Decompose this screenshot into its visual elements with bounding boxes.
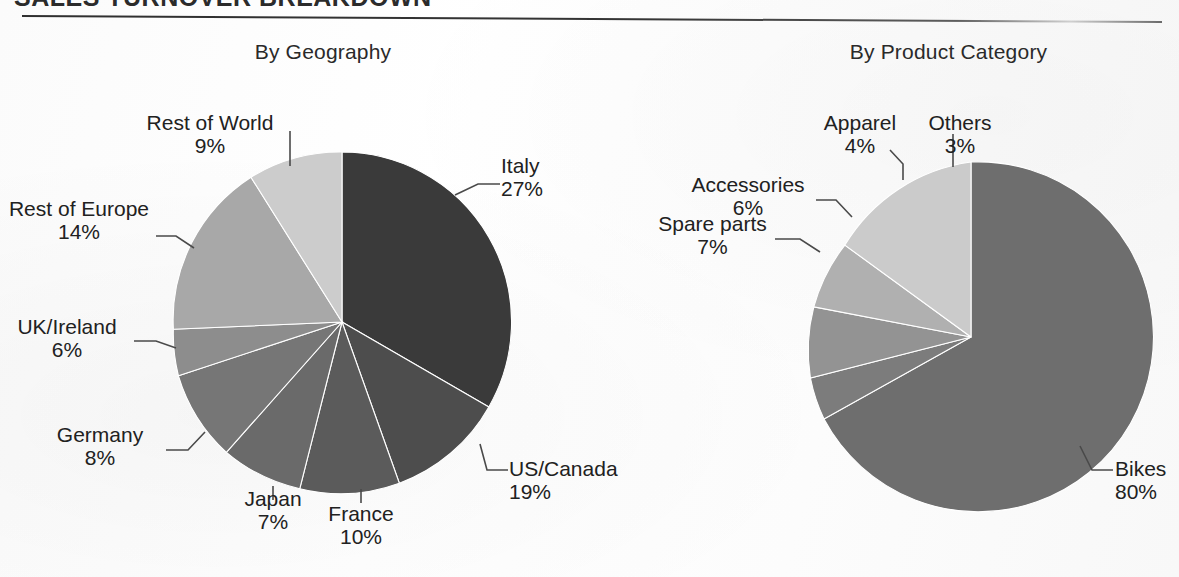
page-root: SALES TURNOVER BREAKDOWN By Geography — [0, 0, 1179, 577]
pie-slices-product — [808, 162, 1153, 512]
pie-slices-geography — [173, 152, 511, 494]
pie-label-others: Others 3% — [916, 112, 1004, 157]
pie-label-us-canada-pct: 19% — [509, 481, 618, 504]
leader-line-accessories — [816, 200, 852, 217]
pie-label-rest-of-world-name: Rest of World — [131, 112, 289, 135]
pie-label-rest-of-europe: Rest of Europe 14% — [0, 198, 158, 243]
pie-label-spare-parts: Spare parts 7% — [650, 213, 775, 258]
pie-label-accessories-pct: 6% — [680, 197, 816, 220]
leader-line-spare-parts — [775, 239, 820, 252]
pie-label-bikes-pct: 80% — [1115, 481, 1166, 504]
pie-label-apparel: Apparel 4% — [808, 112, 912, 157]
pie-label-rest-of-world: Rest of World 9% — [131, 112, 289, 157]
pie-label-rest-of-europe-name: Rest of Europe — [0, 198, 158, 221]
leader-line-uk-ireland — [134, 341, 176, 348]
pie-label-uk-ireland: UK/Ireland 6% — [0, 316, 134, 361]
leader-line-rest-of-europe — [156, 236, 194, 248]
pie-label-italy: Italy 27% — [501, 155, 543, 200]
pie-label-rest-of-europe-pct: 14% — [0, 221, 158, 244]
pie-label-germany: Germany 8% — [34, 424, 166, 469]
pie-label-apparel-name: Apparel — [808, 112, 912, 135]
pie-label-others-pct: 3% — [916, 135, 1004, 158]
leader-line-italy — [455, 184, 500, 195]
pie-label-japan-pct: 7% — [218, 511, 328, 534]
pie-label-accessories-name: Accessories — [680, 174, 816, 197]
pie-label-italy-name: Italy — [501, 155, 543, 178]
leader-line-us-canada — [480, 444, 508, 470]
pie-label-others-name: Others — [916, 112, 1004, 135]
pie-label-bikes-name: Bikes — [1115, 458, 1166, 481]
pie-label-japan-name: Japan — [218, 488, 328, 511]
pie-label-germany-name: Germany — [34, 424, 166, 447]
pie-label-uk-ireland-name: UK/Ireland — [0, 316, 134, 339]
pie-label-spare-parts-pct: 7% — [650, 236, 775, 259]
pie-chart-product-graphic — [660, 0, 1179, 577]
pie-label-italy-pct: 27% — [501, 178, 543, 201]
chart-by-product-category: By Product Category Bikes 80% — [660, 0, 1179, 577]
pie-label-uk-ireland-pct: 6% — [0, 339, 134, 362]
pie-label-bikes: Bikes 80% — [1115, 458, 1166, 503]
pie-label-germany-pct: 8% — [34, 447, 166, 470]
pie-label-us-canada-name: US/Canada — [509, 458, 618, 481]
pie-label-us-canada: US/Canada 19% — [509, 458, 618, 503]
header-divider-line — [22, 15, 1162, 23]
pie-label-accessories: Accessories 6% — [680, 174, 816, 219]
pie-label-japan: Japan 7% — [218, 488, 328, 533]
pie-label-rest-of-world-pct: 9% — [131, 135, 289, 158]
leader-line-germany — [166, 432, 205, 450]
chart-by-geography: By Geography — [0, 0, 660, 577]
header-divider — [0, 12, 1179, 22]
document-title: SALES TURNOVER BREAKDOWN — [14, 0, 432, 12]
pie-label-apparel-pct: 4% — [808, 135, 912, 158]
